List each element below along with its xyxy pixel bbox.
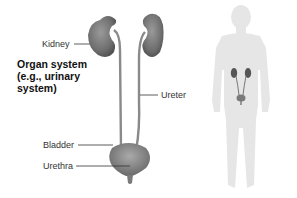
urethra — [127, 175, 133, 184]
kidney-label: Kidney — [42, 40, 70, 49]
bladder — [109, 143, 150, 176]
urethra-label: Urethra — [43, 162, 73, 171]
right-kidney — [142, 14, 163, 57]
ureter-label: Ureter — [161, 91, 186, 100]
left-kidney — [88, 16, 116, 57]
organ-system-title: Organ system (e.g., urinary system) — [17, 58, 127, 94]
bladder-label: Bladder — [43, 141, 74, 150]
title-line-2: (e.g., urinary — [17, 70, 127, 82]
title-line-3: system) — [17, 82, 127, 94]
title-line-1: Organ system — [17, 58, 127, 70]
